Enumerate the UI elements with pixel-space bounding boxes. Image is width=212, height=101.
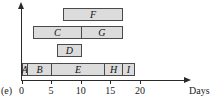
gantt-task-label: E	[75, 65, 81, 75]
gantt-chart-figure: 05101520 FCGDABEHI Days (e)	[0, 0, 212, 101]
gantt-task-bar: F	[63, 8, 123, 21]
x-axis-tick	[81, 80, 82, 84]
gantt-task-label: B	[37, 65, 43, 75]
gantt-task-bar: B	[27, 63, 52, 76]
x-axis-tick-label: 20	[135, 85, 145, 97]
gantt-task-bar: C	[33, 26, 81, 39]
gantt-task-label: G	[98, 28, 105, 38]
x-axis-tick-label: 5	[49, 85, 54, 97]
gantt-task-label: D	[66, 46, 73, 56]
x-axis-tick	[110, 80, 111, 84]
x-axis-title: Days	[189, 85, 210, 97]
x-axis-tick-label: 0	[19, 85, 24, 97]
x-axis-tick	[22, 80, 23, 84]
x-axis-line	[21, 80, 185, 81]
x-axis-tick	[140, 80, 141, 84]
panel-label: (e)	[1, 85, 12, 97]
gantt-task-label: C	[54, 28, 61, 38]
gantt-task-bar: D	[57, 44, 82, 57]
x-axis-tick-label: 10	[76, 85, 86, 97]
gantt-task-bar: G	[81, 26, 123, 39]
x-axis-arrow-icon	[184, 77, 191, 83]
gantt-task-bar: E	[51, 63, 105, 76]
x-axis-tick	[51, 80, 52, 84]
x-axis-tick-label: 15	[105, 85, 115, 97]
gantt-task-bar: I	[122, 63, 135, 76]
gantt-task-label: H	[110, 65, 117, 75]
gantt-task-label: I	[127, 65, 131, 75]
gantt-task-bar: H	[104, 63, 123, 76]
gantt-task-label: F	[90, 10, 96, 20]
